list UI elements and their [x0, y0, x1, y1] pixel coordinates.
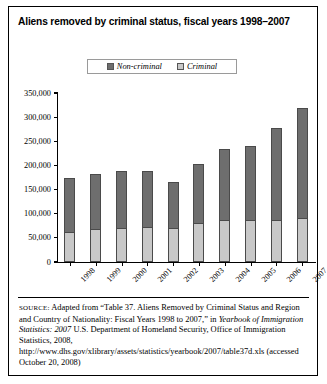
y-axis-tick-label: 0 — [47, 257, 51, 266]
bar-segment-non-criminal[interactable] — [193, 164, 204, 222]
x-axis-tick-mark — [251, 263, 252, 266]
bar-segment-non-criminal[interactable] — [297, 108, 308, 218]
x-axis-tick-mark — [199, 263, 200, 266]
bar-stack[interactable] — [64, 178, 75, 262]
y-axis-tick-mark — [54, 261, 58, 262]
chart-legend: Non-criminal Criminal — [87, 59, 237, 74]
x-axis-tick-mark — [96, 263, 97, 266]
x-axis-tick-mark — [302, 263, 303, 266]
bar-stack[interactable] — [116, 171, 127, 262]
x-axis-tick-mark — [70, 263, 71, 266]
bar-stack[interactable] — [90, 174, 101, 262]
y-axis-tick-mark — [54, 237, 58, 238]
x-axis-tick-mark — [173, 263, 174, 266]
bar-segment-criminal[interactable] — [116, 228, 127, 262]
y-axis-tick-mark — [54, 213, 58, 214]
bar-segment-non-criminal[interactable] — [219, 149, 230, 220]
y-axis-tick-mark — [54, 117, 58, 118]
bar-segment-criminal[interactable] — [219, 220, 230, 262]
plot-area — [57, 93, 315, 262]
bar-stack[interactable] — [193, 164, 204, 262]
y-axis-tick-mark — [54, 165, 58, 166]
bar-stack[interactable] — [142, 171, 153, 262]
bar-stack[interactable] — [297, 108, 308, 262]
bar-stack[interactable] — [168, 182, 179, 262]
x-axis-tick-mark — [225, 263, 226, 266]
bar-stack[interactable] — [219, 149, 230, 262]
bar-segment-criminal[interactable] — [64, 232, 75, 262]
legend-label-criminal: Criminal — [187, 62, 217, 71]
bar-stack[interactable] — [245, 146, 256, 262]
source-note: SOURCE: Adapted from “Table 37. Aliens R… — [19, 302, 313, 367]
bar-segment-non-criminal[interactable] — [168, 182, 179, 227]
legend-swatch-non-criminal — [107, 63, 114, 70]
bar-segment-non-criminal[interactable] — [116, 171, 127, 227]
bar-segment-non-criminal[interactable] — [90, 174, 101, 229]
x-axis-tick-mark — [122, 263, 123, 266]
source-note-label: SOURCE: — [19, 304, 50, 311]
legend-entry-criminal: Criminal — [177, 62, 217, 71]
y-axis-tick-label: 350,000 — [24, 88, 51, 97]
bar-segment-criminal[interactable] — [90, 229, 101, 262]
y-axis-tick-label: 250,000 — [24, 136, 51, 145]
x-axis-tick-mark — [276, 263, 277, 266]
legend-entry-non-criminal: Non-criminal — [107, 62, 162, 71]
bar-segment-non-criminal[interactable] — [271, 128, 282, 220]
y-axis-tick-mark — [54, 141, 58, 142]
bar-segment-criminal[interactable] — [193, 223, 204, 262]
y-axis-tick-label: 50,000 — [28, 233, 51, 242]
bar-segment-non-criminal[interactable] — [245, 146, 256, 220]
bar-segment-criminal[interactable] — [245, 220, 256, 262]
bar-segment-criminal[interactable] — [271, 220, 282, 262]
x-axis-tick-mark — [147, 263, 148, 266]
y-axis-tick-mark — [54, 189, 58, 190]
bar-segment-criminal[interactable] — [142, 227, 153, 262]
bar-segment-criminal[interactable] — [168, 228, 179, 262]
bar-segment-non-criminal[interactable] — [64, 178, 75, 233]
bar-segment-criminal[interactable] — [297, 218, 308, 262]
y-axis-tick-mark — [54, 92, 58, 93]
y-axis-tick-label: 150,000 — [24, 185, 51, 194]
bar-stack[interactable] — [271, 128, 282, 262]
y-axis-tick-label: 300,000 — [24, 112, 51, 121]
y-axis-tick-label: 100,000 — [24, 209, 51, 218]
source-divider — [18, 297, 309, 298]
legend-label-non-criminal: Non-criminal — [117, 62, 162, 71]
chart-title: Aliens removed by criminal status, fisca… — [18, 16, 310, 28]
legend-swatch-criminal — [177, 63, 184, 70]
bar-segment-non-criminal[interactable] — [142, 171, 153, 227]
y-axis-tick-label: 200,000 — [24, 160, 51, 169]
